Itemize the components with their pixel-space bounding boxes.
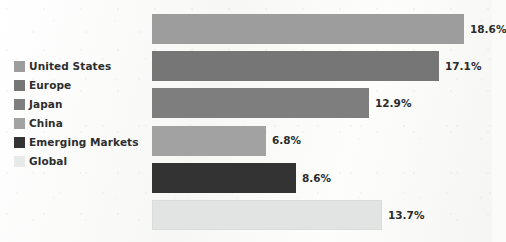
bar[interactable] bbox=[152, 14, 464, 44]
plot-area: 18.6% 17.1% 12.9% 6.8% 8.6% 13.7% bbox=[152, 0, 492, 242]
legend-item-china[interactable]: China bbox=[14, 114, 146, 133]
legend-item-label: Global bbox=[29, 156, 67, 167]
legend-item-label: Emerging Markets bbox=[29, 137, 139, 148]
bar[interactable] bbox=[152, 163, 296, 193]
bar[interactable] bbox=[152, 126, 266, 156]
bar-value-label: 13.7% bbox=[388, 210, 424, 221]
legend-item-europe[interactable]: Europe bbox=[14, 76, 146, 95]
bar-value-label: 17.1% bbox=[445, 61, 481, 72]
bar[interactable] bbox=[152, 88, 369, 118]
legend-item-global[interactable]: Global bbox=[14, 152, 146, 171]
bar-value-label: 18.6% bbox=[470, 24, 506, 35]
legend-item-label: Europe bbox=[29, 80, 71, 91]
legend-swatch-icon bbox=[14, 156, 25, 167]
chart-legend: United States Europe Japan China Emergin… bbox=[14, 57, 146, 171]
legend-swatch-icon bbox=[14, 61, 25, 72]
legend-item-emerging-markets[interactable]: Emerging Markets bbox=[14, 133, 146, 152]
bar-row[interactable]: 13.7% bbox=[152, 200, 424, 230]
legend-swatch-icon bbox=[14, 137, 25, 148]
legend-swatch-icon bbox=[14, 80, 25, 91]
bar-value-label: 12.9% bbox=[375, 98, 411, 109]
legend-item-japan[interactable]: Japan bbox=[14, 95, 146, 114]
bar[interactable] bbox=[152, 200, 382, 230]
bar-row[interactable]: 8.6% bbox=[152, 163, 331, 193]
bar-value-label: 6.8% bbox=[272, 135, 301, 146]
legend-item-united-states[interactable]: United States bbox=[14, 57, 146, 76]
legend-swatch-icon bbox=[14, 118, 25, 129]
bar-row[interactable]: 6.8% bbox=[152, 126, 301, 156]
legend-item-label: Japan bbox=[29, 99, 63, 110]
bar-row[interactable]: 12.9% bbox=[152, 88, 411, 118]
bar-row[interactable]: 18.6% bbox=[152, 14, 506, 44]
bar-row[interactable]: 17.1% bbox=[152, 51, 481, 81]
bar[interactable] bbox=[152, 51, 439, 81]
legend-item-label: United States bbox=[29, 61, 111, 72]
legend-item-label: China bbox=[29, 118, 63, 129]
legend-swatch-icon bbox=[14, 99, 25, 110]
bar-value-label: 8.6% bbox=[302, 173, 331, 184]
